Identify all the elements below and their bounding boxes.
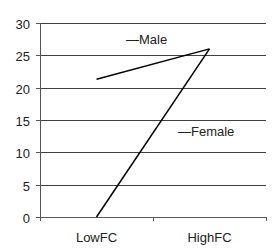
legend-label-female: —Female: [178, 124, 234, 139]
y-tick-label: 30: [16, 17, 30, 32]
y-tick-label: 5: [23, 179, 30, 194]
y-tick-label: 10: [16, 146, 30, 161]
legend: —Male—Female: [126, 32, 234, 139]
x-tick-label: HighFC: [187, 230, 231, 245]
x-axis: LowFCHighFC: [40, 217, 267, 245]
y-tick-label: 20: [16, 82, 30, 97]
y-tick-label: 25: [16, 49, 30, 64]
gridlines: [40, 24, 266, 186]
y-axis: 051015202530: [16, 17, 41, 226]
y-tick-label: 15: [16, 114, 30, 129]
x-tick-label: LowFC: [76, 230, 117, 245]
line-chart: 051015202530 LowFCHighFC —Male—Female: [0, 0, 278, 252]
y-tick-label: 0: [23, 211, 30, 226]
legend-label-male: —Male: [126, 32, 167, 47]
